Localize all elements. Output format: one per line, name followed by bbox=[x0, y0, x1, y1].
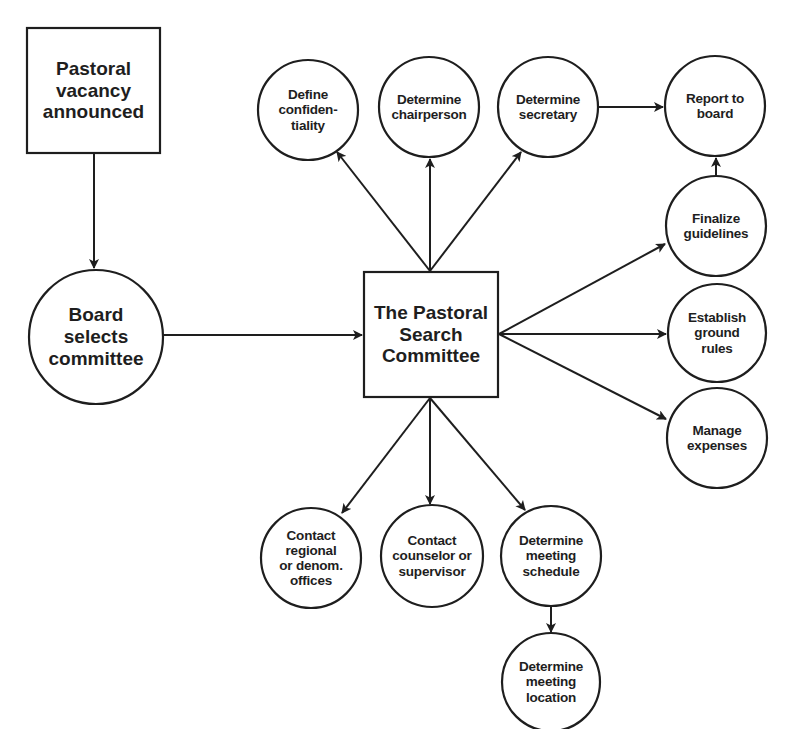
board-label: Board selects committee bbox=[48, 304, 143, 370]
guidelines-label: Finalize guidelines bbox=[684, 211, 749, 241]
groundrules-label: Establish ground rules bbox=[688, 310, 746, 355]
report-label: Report to board bbox=[686, 91, 744, 121]
expenses-node: Manage expenses bbox=[667, 388, 767, 488]
edge-committee-schedule bbox=[430, 398, 525, 510]
vacancy-label: Pastoral vacancy announced bbox=[43, 58, 144, 124]
edge-committee-confidentiality bbox=[337, 152, 430, 271]
location-node: Determine meeting location bbox=[501, 632, 601, 729]
chairperson-label: Determine chairperson bbox=[391, 92, 466, 122]
counselor-label: Contact counselor or supervisor bbox=[392, 533, 471, 578]
edge-committee-regional bbox=[342, 398, 430, 513]
expenses-label: Manage expenses bbox=[687, 423, 747, 453]
confidentiality-label: Define confiden- tiality bbox=[279, 87, 338, 132]
schedule-label: Determine meeting schedule bbox=[519, 533, 583, 578]
edge-committee-secretary bbox=[430, 152, 521, 271]
committee-node: The Pastoral Search Committee bbox=[364, 272, 498, 397]
schedule-node: Determine meeting schedule bbox=[501, 506, 601, 606]
report-node: Report to board bbox=[665, 56, 765, 156]
secretary-label: Determine secretary bbox=[516, 92, 580, 122]
secretary-node: Determine secretary bbox=[498, 57, 598, 157]
confidentiality-node: Define confiden- tiality bbox=[258, 60, 358, 160]
edge-committee-guidelines bbox=[499, 244, 665, 334]
location-label: Determine meeting location bbox=[519, 659, 583, 704]
vacancy-node: Pastoral vacancy announced bbox=[27, 28, 160, 153]
committee-label: The Pastoral Search Committee bbox=[374, 302, 488, 368]
regional-label: Contact regional or denom. offices bbox=[279, 528, 342, 588]
counselor-node: Contact counselor or supervisor bbox=[382, 506, 482, 606]
chairperson-node: Determine chairperson bbox=[379, 57, 479, 157]
groundrules-node: Establish ground rules bbox=[667, 283, 767, 383]
board-node: Board selects committee bbox=[29, 270, 163, 404]
regional-node: Contact regional or denom. offices bbox=[261, 508, 361, 608]
edge-committee-expenses bbox=[499, 334, 666, 419]
guidelines-node: Finalize guidelines bbox=[666, 176, 766, 276]
